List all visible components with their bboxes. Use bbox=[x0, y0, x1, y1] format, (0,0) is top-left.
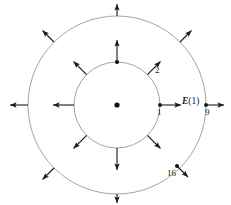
label-field: E(1) bbox=[182, 97, 199, 107]
field-argument: (1) bbox=[188, 96, 199, 106]
outer-arrow-northeast bbox=[180, 31, 192, 43]
center-dot bbox=[114, 102, 119, 107]
label-inner-radius: 1 bbox=[157, 108, 162, 117]
inner-arrow-southeast bbox=[147, 135, 160, 148]
inner-arrow-northwest bbox=[74, 62, 87, 75]
inner-top-dot bbox=[115, 60, 119, 64]
inner-arrow-southwest bbox=[74, 135, 87, 148]
figure-container: 1 2 9 16 E(1) bbox=[0, 0, 231, 205]
label-outer-radius: 9 bbox=[205, 108, 210, 117]
outer-arrow-southwest bbox=[43, 168, 55, 180]
label-outer-arc: 16 bbox=[167, 169, 176, 178]
outer-arrow-northwest bbox=[43, 31, 55, 43]
label-inner-arc: 2 bbox=[155, 66, 160, 75]
outer-arrow-southeast bbox=[177, 166, 188, 177]
